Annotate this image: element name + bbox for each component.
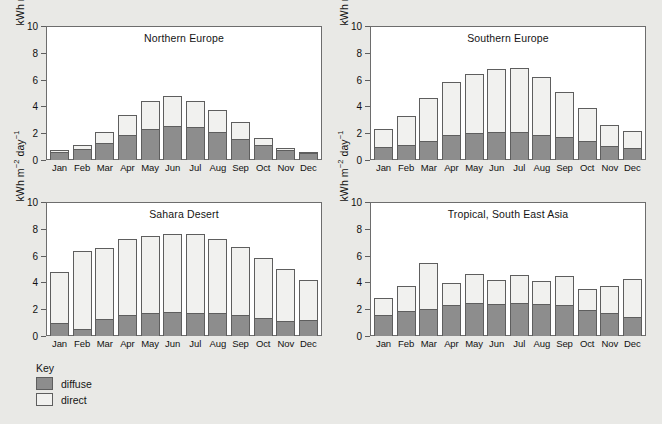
legend-item-diffuse: diffuse	[36, 377, 256, 390]
bar-segment-diffuse	[374, 315, 393, 336]
stacked-bar	[186, 101, 205, 160]
bar-segment-direct	[208, 239, 227, 313]
stacked-bar	[419, 263, 438, 336]
y-axis-tick	[41, 160, 46, 161]
x-axis-labels: JanFebMarAprMayJunJulAugSepOctNovDec	[370, 338, 646, 349]
bar-segment-diffuse	[118, 135, 137, 160]
y-axis-ticks: 0246810	[41, 202, 46, 336]
bar-segment-direct	[623, 279, 642, 317]
bar-segment-diffuse	[73, 329, 92, 336]
bar-segment-diffuse	[186, 127, 205, 160]
x-axis-tick-label: Feb	[397, 338, 416, 349]
x-axis-tick-label: Jul	[510, 338, 529, 349]
y-axis-tick-label: 4	[32, 277, 38, 288]
bar-segment-diffuse	[600, 313, 619, 336]
bar-segment-diffuse	[397, 311, 416, 336]
bar-segment-direct	[532, 77, 551, 135]
x-axis-tick-label: May	[141, 338, 160, 349]
bar-segment-direct	[555, 92, 574, 137]
bar-segment-direct	[208, 110, 227, 131]
stacked-bar	[73, 251, 92, 336]
stacked-bar	[532, 77, 551, 160]
bar-segment-diffuse	[465, 133, 484, 160]
chart-panel-tropical-south-east-asia: kWh m−2 day−1 Tropical, South East Asia …	[336, 188, 656, 366]
y-axis-tick	[365, 53, 370, 54]
y-axis-tick	[41, 202, 46, 203]
stacked-bar	[50, 272, 69, 336]
panel-title: Northern Europe	[46, 32, 322, 44]
bar-segment-diffuse	[397, 145, 416, 160]
y-axis-tick	[365, 256, 370, 257]
bar-segment-direct	[276, 269, 295, 321]
y-axis-ticks: 0246810	[365, 202, 370, 336]
bar-segment-diffuse	[578, 310, 597, 336]
stacked-bar	[208, 239, 227, 336]
x-axis-tick-label: Mar	[419, 338, 438, 349]
bar-segment-direct	[186, 101, 205, 127]
x-axis-tick-label: Oct	[254, 338, 273, 349]
bar-segment-diffuse	[510, 132, 529, 160]
bar-segment-direct	[163, 96, 182, 125]
stacked-bar	[118, 115, 137, 160]
bar-group	[48, 202, 320, 336]
y-axis-tick	[41, 26, 46, 27]
stacked-bar	[118, 239, 137, 336]
bar-segment-direct	[419, 98, 438, 140]
bar-segment-diffuse	[555, 137, 574, 160]
y-axis-tick-label: 8	[32, 223, 38, 234]
y-axis-tick	[41, 256, 46, 257]
bar-segment-diffuse	[95, 319, 114, 336]
y-axis-tick-label: 4	[356, 277, 362, 288]
y-axis-tick	[365, 26, 370, 27]
bar-segment-diffuse	[578, 141, 597, 160]
legend-label-diffuse: diffuse	[61, 378, 92, 390]
bar-segment-direct	[600, 286, 619, 312]
bar-segment-diffuse	[419, 141, 438, 160]
x-axis-tick-label: Sep	[231, 162, 250, 173]
x-axis-tick-label: Nov	[600, 338, 619, 349]
stacked-bar	[442, 283, 461, 336]
figure-canvas: kWh m−2 day−1 Northern Europe 0246810 Ja…	[0, 0, 662, 424]
x-axis-tick-label: May	[141, 162, 160, 173]
x-axis-tick-label: Apr	[442, 338, 461, 349]
stacked-bar	[95, 248, 114, 336]
stacked-bar	[578, 108, 597, 160]
bar-segment-direct	[465, 274, 484, 303]
stacked-bar	[276, 148, 295, 160]
y-axis-tick-label: 2	[32, 128, 38, 139]
bar-segment-diffuse	[532, 135, 551, 160]
bar-segment-direct	[95, 132, 114, 143]
bar-segment-direct	[299, 280, 318, 320]
bar-segment-direct	[73, 251, 92, 329]
bar-segment-direct	[231, 122, 250, 138]
y-axis-tick-label: 10	[27, 197, 38, 208]
panel-title: Southern Europe	[370, 32, 646, 44]
stacked-bar	[73, 145, 92, 160]
bar-segment-diffuse	[600, 146, 619, 160]
stacked-bar	[532, 281, 551, 336]
y-axis-tick-label: 10	[351, 21, 362, 32]
bar-segment-diffuse	[374, 147, 393, 160]
x-axis-labels: JanFebMarAprMayJunJulAugSepOctNovDec	[46, 162, 322, 173]
bar-segment-direct	[374, 298, 393, 315]
stacked-bar	[465, 74, 484, 160]
bar-segment-direct	[532, 281, 551, 304]
x-axis-tick-label: Aug	[532, 162, 551, 173]
stacked-bar	[50, 150, 69, 160]
stacked-bar	[487, 69, 506, 160]
y-axis-tick-label: 6	[32, 250, 38, 261]
y-axis-tick	[41, 106, 46, 107]
x-axis-tick-label: Oct	[254, 162, 273, 173]
bar-segment-diffuse	[487, 132, 506, 160]
y-axis-tick	[41, 133, 46, 134]
stacked-bar	[578, 289, 597, 336]
chart-panel-northern-europe: kWh m−2 day−1 Northern Europe 0246810 Ja…	[12, 12, 332, 190]
stacked-bar	[397, 286, 416, 336]
x-axis-tick-label: Nov	[276, 162, 295, 173]
bar-segment-direct	[510, 275, 529, 303]
plot-wrapper: Southern Europe 0246810	[370, 26, 646, 160]
bar-segment-diffuse	[50, 323, 69, 336]
x-axis-tick-label: Oct	[578, 338, 597, 349]
bar-segment-direct	[118, 239, 137, 315]
bar-group	[372, 202, 644, 336]
